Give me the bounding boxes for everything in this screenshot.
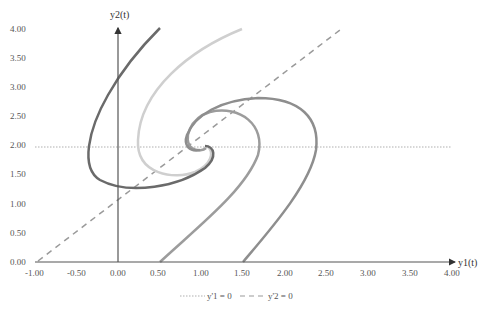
svg-text:1.50: 1.50 bbox=[234, 268, 250, 278]
svg-text:1.50: 1.50 bbox=[10, 169, 26, 179]
svg-text:2.50: 2.50 bbox=[318, 268, 334, 278]
svg-text:3.50: 3.50 bbox=[402, 268, 418, 278]
svg-text:2.50: 2.50 bbox=[10, 111, 26, 121]
svg-text:3.00: 3.00 bbox=[10, 82, 26, 92]
x-tick-labels: -1.00 -0.50 0.00 0.50 1.00 1.50 2.00 2.5… bbox=[25, 268, 460, 278]
svg-text:1.00: 1.00 bbox=[10, 199, 26, 209]
svg-text:0.50: 0.50 bbox=[150, 268, 166, 278]
legend-label-y2: y'2 = 0 bbox=[268, 291, 293, 301]
x-axis-title: y1(t) bbox=[458, 257, 477, 269]
svg-text:0.50: 0.50 bbox=[10, 228, 26, 238]
svg-text:-1.00: -1.00 bbox=[25, 268, 44, 278]
y-tick-labels: 0.00 0.50 1.00 1.50 2.00 2.50 3.00 3.50 … bbox=[10, 24, 26, 267]
trajectory-dark bbox=[88, 28, 213, 188]
svg-text:0.00: 0.00 bbox=[110, 268, 126, 278]
trajectory-mid-1 bbox=[160, 111, 259, 262]
svg-text:0.00: 0.00 bbox=[10, 257, 26, 267]
y-axis-title: y2(t) bbox=[110, 9, 129, 21]
svg-text:2.00: 2.00 bbox=[10, 140, 26, 150]
legend-label-y1: y'1 = 0 bbox=[207, 291, 232, 301]
phase-plane-chart: y2(t) y1(t) 0.00 0.50 1.00 1.50 2.00 2.5… bbox=[0, 0, 488, 310]
svg-text:1.00: 1.00 bbox=[193, 268, 209, 278]
svg-text:3.50: 3.50 bbox=[10, 53, 26, 63]
svg-text:2.00: 2.00 bbox=[277, 268, 293, 278]
svg-text:4.00: 4.00 bbox=[444, 268, 460, 278]
svg-text:4.00: 4.00 bbox=[10, 24, 26, 34]
legend: y'1 = 0 y'2 = 0 bbox=[180, 291, 293, 301]
svg-text:-0.50: -0.50 bbox=[67, 268, 86, 278]
svg-text:3.00: 3.00 bbox=[360, 268, 376, 278]
